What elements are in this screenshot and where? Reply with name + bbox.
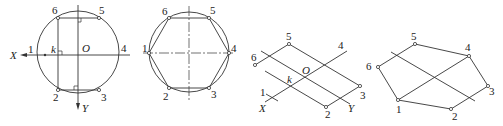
point-1 <box>147 51 150 54</box>
label-y-axis: Y <box>348 102 356 114</box>
label-2: 2 <box>452 110 458 122</box>
panel-a-circle-with-axes: 6 5 1 4 2 3 O k X Y <box>9 4 130 114</box>
label-5: 5 <box>286 30 292 42</box>
point-4 <box>467 54 470 57</box>
point-6 <box>253 63 256 66</box>
label-5: 5 <box>411 30 417 42</box>
label-1: 1 <box>142 42 148 54</box>
label-4: 4 <box>231 42 237 54</box>
right-angle-mark-bottom <box>74 86 78 90</box>
label-4: 4 <box>338 39 344 51</box>
x-axis-line <box>265 51 347 102</box>
point-3 <box>358 84 361 87</box>
point-5 <box>97 16 100 19</box>
label-3: 3 <box>360 89 366 101</box>
y-axis-arrow-icon <box>76 103 80 110</box>
point-5 <box>413 42 416 45</box>
label-3: 3 <box>101 91 107 103</box>
label-5: 5 <box>210 4 216 16</box>
label-origin: O <box>82 42 90 54</box>
label-y-axis: Y <box>82 102 90 114</box>
label-6: 6 <box>52 4 58 16</box>
label-6: 6 <box>162 5 168 17</box>
label-origin: O <box>302 64 310 76</box>
x-axis-arrow-icon <box>20 53 27 57</box>
point-6 <box>167 16 170 19</box>
label-1: 1 <box>260 86 266 98</box>
right-angle-mark-k <box>58 51 62 55</box>
point-1 <box>396 98 399 101</box>
label-k: k <box>51 43 57 55</box>
label-4: 4 <box>121 42 127 54</box>
line-2-3 <box>326 86 360 107</box>
label-6: 6 <box>366 60 372 72</box>
hexagon-isometric-diagram: 6 5 1 4 2 3 O k X Y 6 5 1 4 2 3 <box>0 0 503 126</box>
label-3: 3 <box>489 85 495 97</box>
label-6: 6 <box>251 51 257 63</box>
line-5-3 <box>289 44 360 86</box>
label-x-axis: X <box>9 49 18 61</box>
label-x-axis: X <box>258 102 267 114</box>
parallel-through-k <box>265 71 326 107</box>
label-1: 1 <box>28 43 34 55</box>
line-6-5 <box>255 44 289 65</box>
label-2: 2 <box>53 91 59 103</box>
label-2: 2 <box>325 108 331 120</box>
label-5: 5 <box>99 4 105 16</box>
panel-c-isometric-construction: 6 5 4 1 2 3 O k X Y <box>251 30 366 120</box>
diagonal-y-axis <box>391 52 475 101</box>
point-6 <box>376 65 379 68</box>
label-3: 3 <box>211 88 217 100</box>
label-1: 1 <box>396 103 402 115</box>
point-5 <box>287 42 290 45</box>
point-5 <box>207 16 210 19</box>
label-4: 4 <box>465 41 471 53</box>
point-6 <box>56 16 59 19</box>
panel-b-inscribed-hexagon: 6 5 1 4 2 3 <box>142 4 237 102</box>
label-2: 2 <box>163 90 169 102</box>
point-k-marker <box>44 54 46 56</box>
label-k: k <box>287 73 293 85</box>
panel-d-isometric-hexagon: 6 5 4 3 2 1 <box>366 30 495 122</box>
